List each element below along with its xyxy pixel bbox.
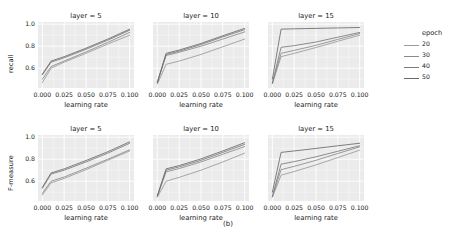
y-axis-ticks-recall: 1.00.80.6 — [15, 22, 35, 88]
legend-item-epoch-20[interactable]: 20 — [404, 40, 454, 51]
legend-item-label: 50 — [422, 74, 430, 80]
x-tick-label: 0.000 — [149, 92, 167, 98]
facet-title: layer = 15 — [268, 13, 364, 20]
x-axis-ticks: 0.0000.0250.0500.0750.100 — [38, 205, 134, 214]
legend: epoch 20304050 — [404, 30, 454, 90]
legend-title: epoch — [422, 30, 442, 37]
x-tick-label: 0.025 — [55, 205, 73, 211]
x-axis-label: learning rate — [268, 102, 364, 109]
legend-item-epoch-50[interactable]: 50 — [404, 73, 454, 84]
figure-caption: (b) — [0, 220, 456, 228]
x-axis-ticks: 0.0000.0250.0500.0750.100 — [268, 92, 364, 101]
x-tick-label: 0.050 — [192, 205, 210, 211]
legend-item-label: 20 — [422, 41, 430, 47]
facet-title: layer = 5 — [38, 13, 134, 20]
plot-panel — [38, 135, 134, 201]
legend-color-swatch — [404, 56, 419, 57]
x-tick-label: 0.100 — [351, 205, 369, 211]
x-tick-label: 0.100 — [121, 92, 139, 98]
plot-panel — [153, 22, 249, 88]
facet-title: layer = 15 — [268, 126, 364, 133]
legend-color-swatch — [404, 45, 419, 46]
y-axis-ticks-fmeasure: 1.00.80.6 — [15, 135, 35, 201]
x-tick-label: 0.025 — [170, 92, 188, 98]
x-tick-label: 0.025 — [285, 92, 303, 98]
legend-color-swatch — [404, 67, 419, 68]
x-axis-label: learning rate — [38, 102, 134, 109]
x-tick-label: 0.075 — [329, 92, 347, 98]
x-tick-label: 0.075 — [214, 205, 232, 211]
legend-item-epoch-30[interactable]: 30 — [404, 51, 454, 62]
x-tick-label: 0.000 — [264, 205, 282, 211]
x-axis-ticks: 0.0000.0250.0500.0750.100 — [38, 92, 134, 101]
legend-item-label: 40 — [422, 63, 430, 69]
x-tick-label: 0.100 — [121, 205, 139, 211]
x-tick-label: 0.025 — [285, 205, 303, 211]
legend-color-swatch — [404, 78, 419, 79]
x-tick-label: 0.000 — [34, 205, 52, 211]
legend-item-epoch-40[interactable]: 40 — [404, 62, 454, 73]
facet-title: layer = 10 — [153, 13, 249, 20]
x-tick-label: 0.075 — [99, 205, 117, 211]
plot-panel — [38, 22, 134, 88]
y-tick-label: 1.0 — [25, 134, 35, 140]
facet-title: layer = 5 — [38, 126, 134, 133]
x-tick-label: 0.025 — [55, 92, 73, 98]
y-tick-label: 1.0 — [25, 21, 35, 27]
x-axis-ticks: 0.0000.0250.0500.0750.100 — [153, 205, 249, 214]
x-tick-label: 0.050 — [77, 205, 95, 211]
legend-item-label: 30 — [422, 52, 430, 58]
plot-panel — [268, 22, 364, 88]
x-tick-label: 0.025 — [170, 205, 188, 211]
x-axis-label: learning rate — [153, 102, 249, 109]
x-tick-label: 0.050 — [192, 92, 210, 98]
x-tick-label: 0.100 — [236, 92, 254, 98]
x-axis-ticks: 0.0000.0250.0500.0750.100 — [268, 205, 364, 214]
y-tick-label: 0.8 — [25, 43, 35, 49]
figure-panel-b: recall 1.00.80.6 F-measure 1.00.80.6 lay… — [0, 0, 456, 237]
x-tick-label: 0.050 — [307, 92, 325, 98]
x-tick-label: 0.050 — [77, 92, 95, 98]
plot-panel — [268, 135, 364, 201]
x-tick-label: 0.100 — [351, 92, 369, 98]
x-tick-label: 0.075 — [214, 92, 232, 98]
facet-title: layer = 10 — [153, 126, 249, 133]
x-tick-label: 0.050 — [307, 205, 325, 211]
y-tick-label: 0.6 — [25, 65, 35, 71]
y-tick-label: 0.6 — [25, 178, 35, 184]
x-tick-label: 0.075 — [99, 92, 117, 98]
x-tick-label: 0.000 — [149, 205, 167, 211]
plot-panel — [153, 135, 249, 201]
x-tick-label: 0.075 — [329, 205, 347, 211]
x-axis-ticks: 0.0000.0250.0500.0750.100 — [153, 92, 249, 101]
x-tick-label: 0.000 — [34, 92, 52, 98]
x-tick-label: 0.100 — [236, 205, 254, 211]
y-tick-label: 0.8 — [25, 156, 35, 162]
x-tick-label: 0.000 — [264, 92, 282, 98]
